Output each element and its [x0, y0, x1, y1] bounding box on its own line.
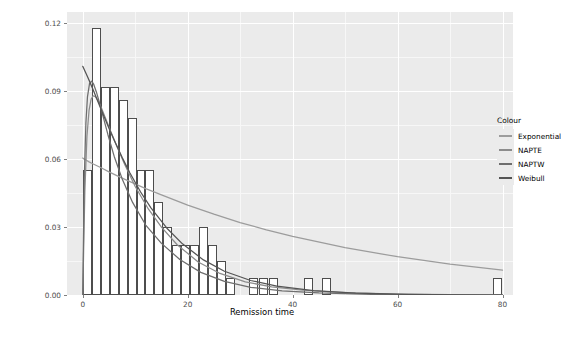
legend-color-swatch	[497, 129, 514, 143]
y-axis-tick-mark	[64, 227, 67, 228]
y-axis-tick-mark	[64, 23, 67, 24]
x-axis-tick-mark	[293, 295, 294, 298]
y-axis: 0.000.030.060.090.12	[28, 12, 67, 295]
density-curve-exponential	[83, 158, 503, 270]
legend-item[interactable]: Exponential	[497, 129, 574, 143]
legend-item-label: Exponential	[518, 132, 561, 141]
plot-area: 0.000.030.060.090.12 020406080	[28, 10, 550, 332]
density-curves	[67, 12, 513, 295]
legend-color-swatch	[497, 143, 514, 157]
legend-line-icon	[499, 177, 512, 178]
y-axis-tick-label: 0.09	[45, 87, 61, 96]
legend-line-icon	[499, 149, 512, 150]
legend-items: ExponentialNAPTENAPTWWeibull	[497, 129, 574, 185]
x-axis-tick-mark	[188, 295, 189, 298]
y-axis-tick-label: 0.00	[45, 291, 61, 300]
chart-figure: 0.000.030.060.090.12 020406080 Remission…	[0, 0, 574, 342]
plot-panel	[67, 12, 513, 295]
legend-item-label: NAPTE	[518, 146, 542, 155]
x-axis-tick-label: 80	[498, 300, 507, 309]
x-axis-tick-mark	[398, 295, 399, 298]
legend-line-icon	[499, 163, 512, 164]
x-axis-tick-mark	[503, 295, 504, 298]
y-axis-tick-mark	[64, 159, 67, 160]
y-axis-tick-label: 0.12	[45, 19, 61, 28]
density-curve-weibull	[83, 66, 503, 295]
legend-title: Colour	[497, 116, 574, 125]
legend-color-swatch	[497, 171, 514, 185]
y-axis-tick-label: 0.03	[45, 223, 61, 232]
legend-item[interactable]: NAPTE	[497, 143, 574, 157]
legend-item[interactable]: NAPTW	[497, 157, 574, 171]
legend-item-label: Weibull	[518, 174, 545, 183]
legend-color-swatch	[497, 157, 514, 171]
y-axis-tick-label: 0.06	[45, 155, 61, 164]
density-curve-napte	[83, 96, 503, 295]
legend-item[interactable]: Weibull	[497, 171, 574, 185]
x-axis-label: Remission time	[39, 307, 485, 317]
legend: Colour ExponentialNAPTENAPTWWeibull	[497, 116, 574, 185]
legend-line-icon	[499, 135, 512, 136]
legend-item-label: NAPTW	[518, 160, 545, 169]
y-axis-tick-mark	[64, 91, 67, 92]
x-axis-tick-mark	[83, 295, 84, 298]
